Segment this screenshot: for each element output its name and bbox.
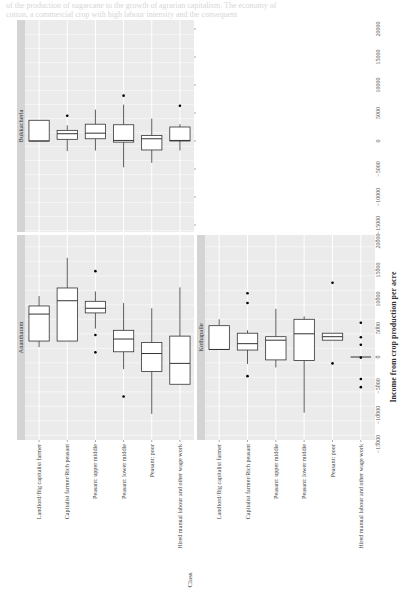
axis-tick-label: 0 [375, 356, 381, 359]
axis-tick-label: 10000 [375, 292, 381, 307]
outlier-point [122, 395, 125, 398]
outlier-point [94, 334, 97, 337]
category-label: Peasant: lower middle [120, 444, 127, 499]
outlier-point [66, 115, 69, 118]
outlier-point [94, 351, 97, 354]
axis-tick-label: −10000 [375, 406, 381, 424]
category-label: Peasant: upper middle [91, 444, 98, 499]
box [237, 333, 257, 350]
category-label: Peasant: upper middle [272, 444, 279, 499]
box [170, 336, 190, 384]
outlier-point [360, 386, 363, 389]
category-label: Landlord/Big capitalist farmer [215, 444, 222, 519]
outlier-point [331, 281, 334, 284]
axis-tick-label: 5000 [375, 107, 381, 119]
axis-tick-label: 20000 [375, 22, 381, 37]
axis-tick-label: 5000 [375, 322, 381, 334]
box [85, 301, 105, 313]
category-label: Hired manual labour and other wage work [357, 443, 364, 549]
category-label: Hired manual labour and other wage work [176, 443, 183, 549]
axis-tick-label: 0 [375, 140, 381, 143]
box [209, 326, 229, 350]
axis-tick-label: −5000 [375, 161, 381, 176]
facet-strip-label: Bukkacherla [17, 109, 24, 142]
category-label: Capitalist farmer/Rich peasant [244, 444, 251, 520]
box [113, 125, 133, 142]
axis-tick-label: −5000 [375, 378, 381, 393]
outlier-point [94, 270, 97, 273]
boxplot-figure: Bukkacherla−15000−10000−5000050001000015… [0, 0, 406, 595]
box [294, 319, 314, 360]
outlier-point [246, 375, 249, 378]
axis-tick-label: −15000 [375, 216, 381, 234]
axis-tick-label: −15000 [375, 435, 381, 453]
axis-tick-label: −10000 [375, 188, 381, 206]
outlier-point [246, 302, 249, 305]
outlier-point [360, 321, 363, 324]
outlier-point [360, 378, 363, 381]
axis-tick-label: 15000 [375, 50, 381, 65]
axis-tick-label: 15000 [375, 263, 381, 278]
box [142, 135, 162, 150]
outlier-point [360, 356, 363, 359]
box [57, 288, 77, 341]
axis-tick-label: 10000 [375, 78, 381, 93]
outlier-point [246, 292, 249, 295]
outlier-point [360, 336, 363, 339]
box [170, 127, 190, 141]
box [85, 124, 105, 139]
category-label: Landlord/Big capitalist farmer [35, 444, 42, 519]
box [29, 306, 49, 341]
box [113, 330, 133, 351]
box [142, 343, 162, 372]
box [57, 130, 77, 139]
axis-tick-label: 20000 [375, 234, 381, 249]
outlier-point [331, 362, 334, 365]
class-axis-title: Class [186, 572, 194, 587]
category-label: Peasant: poor [329, 444, 336, 478]
category-label: Capitalist farmer/Rich peasant [63, 444, 70, 520]
value-axis-title: Income from crop production per acre [389, 271, 398, 402]
outlier-point [122, 94, 125, 97]
outlier-point [179, 104, 182, 107]
category-label: Peasant: poor [148, 444, 155, 478]
box [29, 120, 49, 141]
outlier-point [360, 344, 363, 347]
facet-strip-label: Anantharam [17, 321, 24, 353]
category-label: Peasant: lower middle [300, 444, 307, 499]
facet-strip-label: Kothapalle [197, 323, 204, 352]
